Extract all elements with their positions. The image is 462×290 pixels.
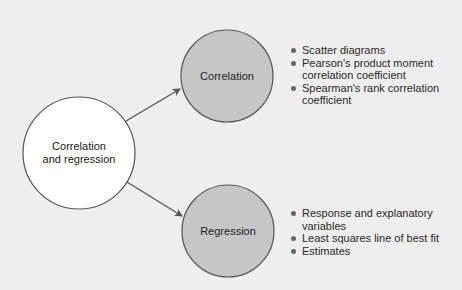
list-item: Scatter diagrams: [291, 44, 439, 57]
list-item: Estimates: [291, 245, 439, 258]
correlation-node-label: Correlation: [200, 70, 254, 83]
center-node-label-line1: Correlation: [43, 140, 116, 153]
list-item: Response and explanatory variables: [291, 207, 439, 232]
bullet-icon: [291, 48, 296, 53]
center-node-label: Correlation and regression: [43, 140, 116, 166]
bullet-icon: [291, 236, 296, 241]
bullet-icon: [291, 211, 296, 216]
list-item: Pearson's product moment correlation coe…: [291, 57, 439, 82]
regression-topics-list: Response and explanatory variables Least…: [291, 207, 439, 257]
correlation-topics-list: Scatter diagrams Pearson's product momen…: [291, 44, 439, 107]
list-item: Least squares line of best fit: [291, 232, 439, 245]
regression-node-label: Regression: [200, 225, 256, 238]
bullet-icon: [291, 61, 296, 66]
arrow-to-correlation: [126, 89, 180, 121]
list-item: Spearman's rank correlation coefficient: [291, 82, 439, 107]
bullet-icon: [291, 86, 296, 91]
center-node-label-line2: and regression: [43, 153, 116, 166]
arrow-to-regression: [127, 182, 182, 216]
bullet-icon: [291, 249, 296, 254]
